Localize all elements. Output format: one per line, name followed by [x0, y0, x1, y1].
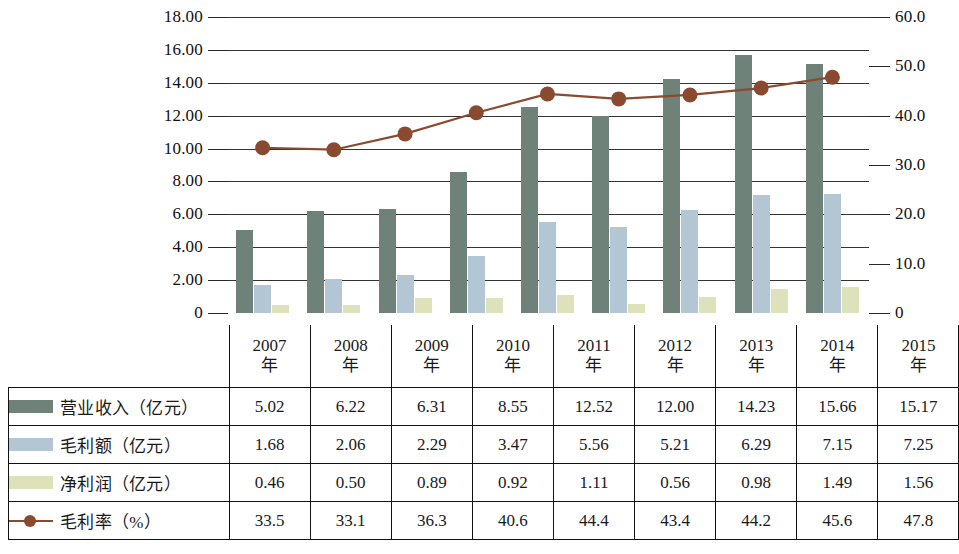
left-axis-tick	[208, 280, 228, 281]
legend-label: 营业收入（亿元）	[60, 394, 198, 419]
table-row: 营业收入（亿元）5.026.226.318.5512.5212.0014.231…	[9, 388, 959, 426]
table-cell: 7.25	[878, 426, 959, 464]
header-year-unit: 年	[716, 356, 796, 376]
table-cell: 8.55	[472, 388, 553, 426]
table-cell: 33.5	[229, 502, 310, 540]
table-cell: 33.1	[310, 502, 391, 540]
header-year-unit: 年	[230, 356, 310, 376]
table-cell: 6.22	[310, 388, 391, 426]
data-table: 2007年2008年2009年2010年2011年2012年2013年2014年…	[8, 325, 959, 540]
bar	[468, 256, 485, 313]
right-axis-tick	[869, 66, 890, 67]
table-header-row: 2007年2008年2009年2010年2011年2012年2013年2014年…	[9, 325, 959, 388]
header-year: 2010	[473, 336, 553, 356]
table-cell: 12.00	[635, 388, 716, 426]
left-axis-tick-label: 14.00	[164, 74, 203, 91]
table-row: 净利润（亿元）0.460.500.890.921.110.560.981.491…	[9, 464, 959, 502]
right-axis-tick	[869, 17, 890, 18]
table-cell: 36.3	[391, 502, 472, 540]
header-year: 2011	[554, 336, 634, 356]
table-cell: 14.23	[716, 388, 797, 426]
legend-label: 毛利率（%）	[60, 508, 161, 533]
table-cell: 0.89	[391, 464, 472, 502]
bar	[628, 304, 645, 313]
left-axis-tick-label: 4.00	[172, 238, 203, 255]
header-year-unit: 年	[554, 356, 634, 376]
table-cell: 1.11	[553, 464, 634, 502]
bar	[681, 210, 698, 313]
bar	[753, 195, 770, 313]
table-cell: 0.98	[716, 464, 797, 502]
table-cell: 43.4	[635, 502, 716, 540]
bar	[824, 194, 841, 313]
bar	[486, 298, 503, 313]
table-cell: 6.29	[716, 426, 797, 464]
bar	[415, 298, 432, 313]
bar	[699, 297, 716, 313]
bar	[557, 295, 574, 313]
table-cell: 6.31	[391, 388, 472, 426]
bar	[521, 107, 538, 313]
right-axis-tick-label: 50.0	[895, 57, 926, 74]
bar	[539, 222, 556, 313]
table-cell: 5.02	[229, 388, 310, 426]
table-cell: 12.52	[553, 388, 634, 426]
table-cell: 2.29	[391, 426, 472, 464]
bar-swatch-revenue	[9, 400, 53, 413]
table-cell: 7.15	[797, 426, 878, 464]
table-column-header: 2007年	[229, 325, 310, 388]
left-axis-tick-label: 18.00	[164, 8, 203, 25]
right-axis-tick-label: 0	[895, 304, 904, 321]
table-column-header: 2015年	[878, 325, 959, 388]
left-axis-tick-label: 2.00	[172, 271, 203, 288]
right-axis-tick	[869, 116, 890, 117]
table-column-header: 2011年	[553, 325, 634, 388]
table-column-header: 2008年	[310, 325, 391, 388]
right-axis-tick-label: 20.0	[895, 205, 926, 222]
left-axis-tick	[208, 17, 228, 18]
bar	[592, 116, 609, 313]
left-axis-tick	[208, 149, 228, 150]
table-column-header: 2012年	[635, 325, 716, 388]
left-axis-tick	[208, 116, 228, 117]
chart-plot-region: 02.004.006.008.0010.0012.0014.0016.0018.…	[0, 0, 957, 325]
left-axis-tick	[208, 181, 228, 182]
legend-cell: 毛利率（%）	[9, 502, 230, 540]
right-axis-tick-label: 10.0	[895, 255, 926, 272]
left-axis-tick-label: 12.00	[164, 107, 203, 124]
table-cell: 1.49	[797, 464, 878, 502]
bar	[450, 172, 467, 313]
table-cell: 44.2	[716, 502, 797, 540]
table-cell: 3.47	[472, 426, 553, 464]
table-cell: 40.6	[472, 502, 553, 540]
header-year: 2014	[797, 336, 877, 356]
bar	[325, 279, 342, 313]
table-cell: 45.6	[797, 502, 878, 540]
header-year: 2013	[716, 336, 796, 356]
left-axis-tick	[208, 247, 228, 248]
header-year-unit: 年	[878, 356, 958, 376]
table-cell: 5.56	[553, 426, 634, 464]
table-cell: 15.17	[878, 388, 959, 426]
bar	[771, 289, 788, 314]
header-year-unit: 年	[635, 356, 715, 376]
table-cell: 0.46	[229, 464, 310, 502]
bar-swatch-gross-profit	[9, 438, 53, 451]
bar	[806, 64, 823, 313]
bar	[735, 55, 752, 313]
legend-cell: 营业收入（亿元）	[9, 388, 230, 426]
bar	[379, 209, 396, 313]
bar	[663, 79, 680, 313]
left-axis-tick-label: 8.00	[172, 172, 203, 189]
header-year: 2009	[392, 336, 472, 356]
right-axis-tick	[869, 313, 890, 314]
table-column-header: 2009年	[391, 325, 472, 388]
header-year: 2007	[230, 336, 310, 356]
table-column-header: 2010年	[472, 325, 553, 388]
left-axis-tick	[208, 50, 228, 51]
bar-swatch-net-profit	[9, 476, 53, 489]
right-axis-tick	[869, 264, 890, 265]
left-axis-tick-label: 6.00	[172, 205, 203, 222]
header-year: 2008	[311, 336, 391, 356]
